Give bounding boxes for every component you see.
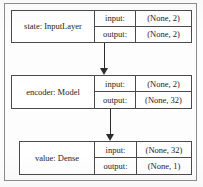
arrow-head <box>100 68 108 75</box>
arrow-shaft <box>110 109 111 135</box>
node-encoder-model[interactable]: encoder: Model input: (None, 2) output: … <box>11 75 192 109</box>
node-encoder-title: encoder: Model <box>12 76 94 108</box>
node-encoder-input-label: input: <box>95 76 136 91</box>
node-state-io-table: input: (None, 2) output: (None, 2) <box>94 11 191 42</box>
node-encoder-output-row: output: (None, 32) <box>95 92 191 108</box>
model-architecture-diagram: state: InputLayer input: (None, 2) outpu… <box>0 0 203 187</box>
node-state-output-label: output: <box>95 27 136 43</box>
node-value-output-label: output: <box>95 158 137 174</box>
node-value-input-row: input: (None, 32) <box>95 142 191 158</box>
node-encoder-output-shape: (None, 32) <box>136 92 191 108</box>
node-state-input-row: input: (None, 2) <box>95 11 191 27</box>
arrow-shaft <box>104 43 105 69</box>
arrow-encoder-to-value-icon <box>105 109 116 141</box>
node-value-input-shape: (None, 32) <box>137 142 191 157</box>
node-state-output-shape: (None, 2) <box>136 27 191 43</box>
node-value-input-label: input: <box>95 142 137 157</box>
node-value-io-table: input: (None, 32) output: (None, 1) <box>94 142 191 174</box>
node-state-title: state: InputLayer <box>12 11 94 42</box>
arrow-state-to-encoder-icon <box>99 43 110 75</box>
node-state-input-label: input: <box>95 11 136 26</box>
node-state-output-row: output: (None, 2) <box>95 27 191 43</box>
node-encoder-input-shape: (None, 2) <box>136 76 191 91</box>
node-state-input-shape: (None, 2) <box>136 11 191 26</box>
node-value-output-shape: (None, 1) <box>137 158 191 174</box>
node-encoder-input-row: input: (None, 2) <box>95 76 191 92</box>
arrow-head <box>106 134 114 141</box>
node-encoder-io-table: input: (None, 2) output: (None, 32) <box>94 76 191 108</box>
node-encoder-output-label: output: <box>95 92 136 108</box>
node-value-dense[interactable]: value: Dense input: (None, 32) output: (… <box>19 141 192 175</box>
node-state-inputlayer[interactable]: state: InputLayer input: (None, 2) outpu… <box>11 10 192 43</box>
node-value-output-row: output: (None, 1) <box>95 158 191 174</box>
node-value-title: value: Dense <box>20 142 94 174</box>
